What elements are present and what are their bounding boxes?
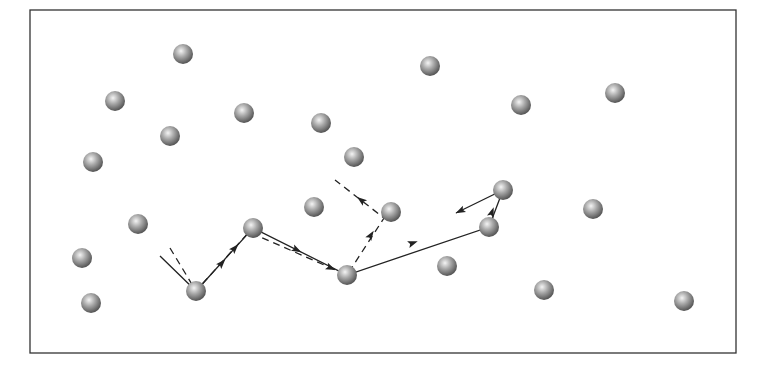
spheres (72, 44, 694, 313)
solid-trajectory (160, 190, 503, 291)
sphere (72, 248, 92, 268)
diagram-frame (30, 10, 736, 353)
trajectory-diagram (0, 0, 763, 381)
sphere (128, 214, 148, 234)
sphere (173, 44, 193, 64)
sphere (83, 152, 103, 172)
sphere (534, 280, 554, 300)
sphere (304, 197, 324, 217)
arrowhead-icon (487, 206, 497, 218)
sphere (381, 202, 401, 222)
sphere (420, 56, 440, 76)
sphere (186, 281, 206, 301)
sphere (344, 147, 364, 167)
sphere (605, 83, 625, 103)
arrowhead-icon (365, 229, 376, 241)
arrowhead-icon (407, 238, 419, 248)
sphere (337, 265, 357, 285)
sphere (511, 95, 531, 115)
sphere (160, 126, 180, 146)
sphere (243, 218, 263, 238)
sphere (583, 199, 603, 219)
sphere (437, 256, 457, 276)
sphere (81, 293, 101, 313)
sphere (493, 180, 513, 200)
sphere (105, 91, 125, 111)
sphere (674, 291, 694, 311)
sphere (479, 217, 499, 237)
sphere (234, 103, 254, 123)
arrowhead-icon (454, 206, 466, 217)
sphere (311, 113, 331, 133)
arrowhead-icon (291, 245, 303, 256)
